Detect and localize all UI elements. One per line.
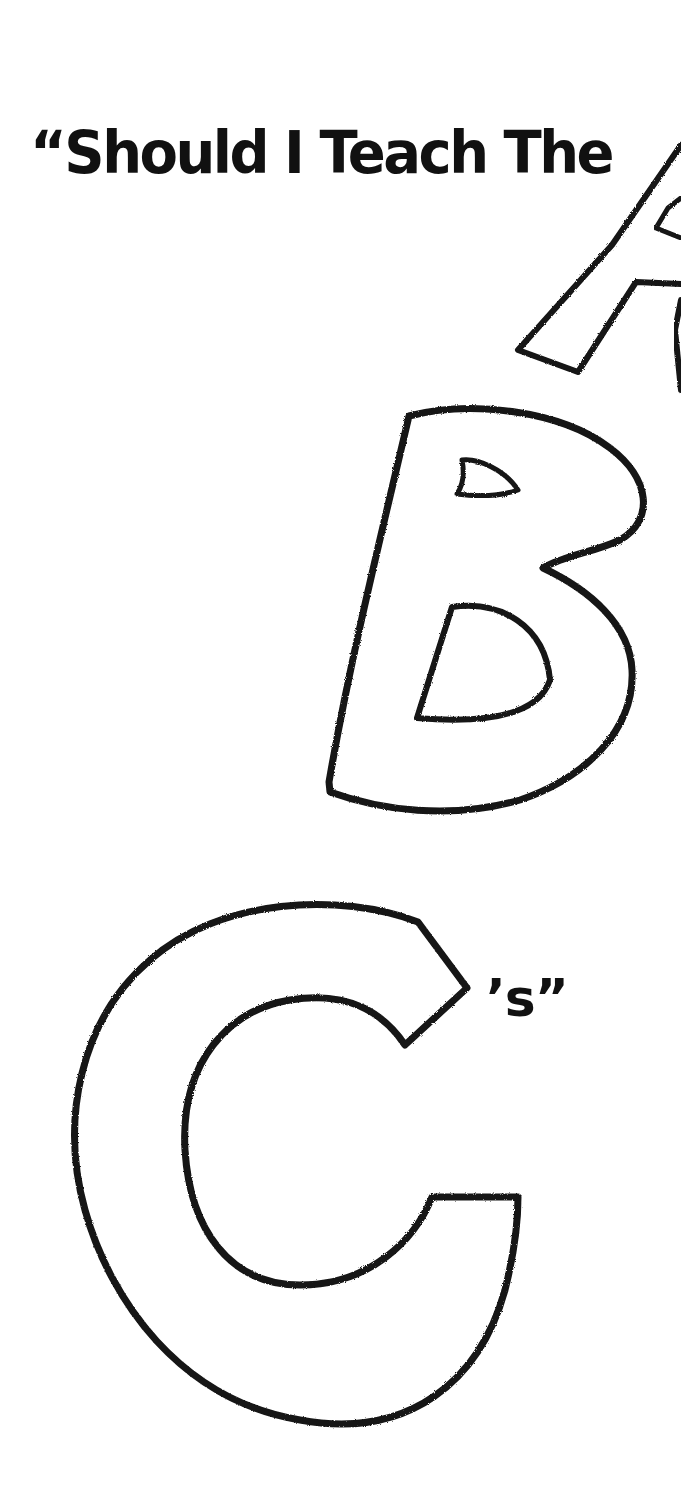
letters-illustration: [0, 0, 681, 1499]
letter-b-outline-icon: [329, 409, 643, 811]
letter-c-outline-icon: [75, 904, 518, 1423]
letter-a-outline-icon: [518, 145, 681, 390]
possessive-suffix: ’s”: [486, 972, 568, 1024]
